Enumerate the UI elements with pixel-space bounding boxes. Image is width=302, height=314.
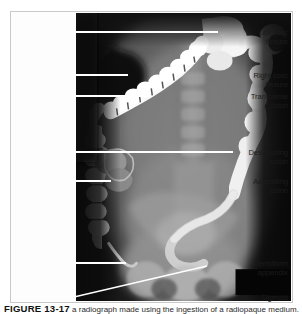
label-right-colic-flexure: Right colic flexure [254, 71, 288, 89]
annotation-label-gutter [11, 12, 76, 302]
figure-plate: Left colic flexure Right colic flexure T… [10, 11, 293, 303]
figure-container: Left colic flexure Right colic flexure T… [0, 0, 302, 314]
figure-caption-text: a radiograph made using the ingestion of… [70, 305, 299, 314]
label-transverse-colon: Transverse colon [251, 92, 288, 110]
label-sigmoid: Sigmoid [261, 293, 288, 302]
figure-caption: FIGURE 13-17 a radiograph made using the… [4, 304, 300, 314]
label-left-colic-flexure: Left colic flexure [259, 28, 288, 46]
figure-number: FIGURE 13-17 [4, 304, 70, 314]
label-descending-colon: Descending colon [248, 148, 288, 166]
label-vermiform-appendix: Vermiform appendix [254, 259, 288, 277]
label-ascending-colon: Ascending colon [253, 177, 288, 195]
